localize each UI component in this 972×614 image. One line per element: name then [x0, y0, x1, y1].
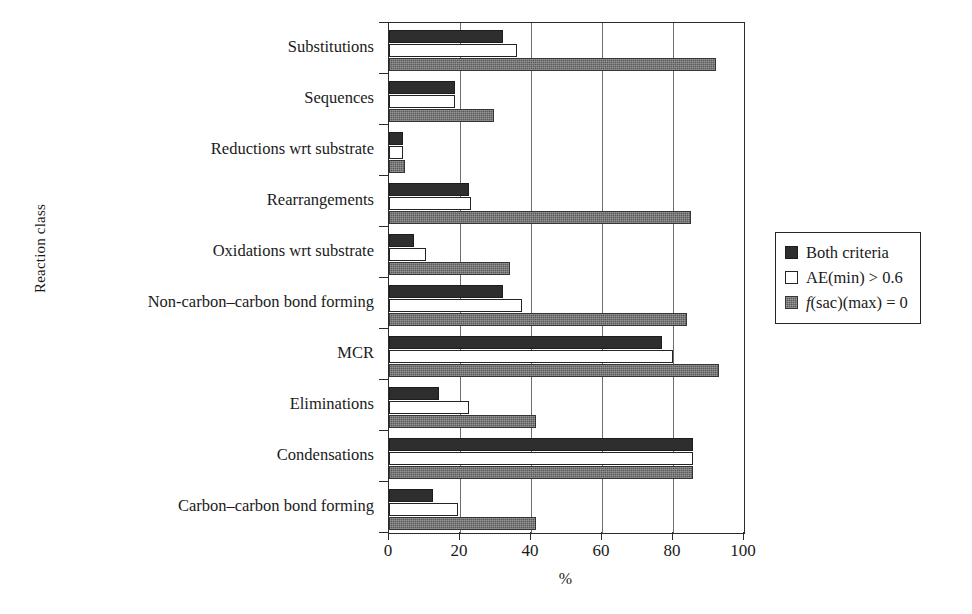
y-tick-6	[379, 328, 388, 329]
bar-both-4	[389, 234, 414, 247]
y-tick-2	[379, 124, 388, 125]
bar-ae-3	[389, 197, 471, 210]
bar-ae-4	[389, 248, 426, 261]
legend-item-ae[interactable]: AE(min) > 0.6	[785, 265, 908, 290]
bar-ae-7	[389, 401, 469, 414]
bar-fsac-0	[389, 58, 716, 71]
legend-item-both[interactable]: Both criteria	[785, 240, 908, 265]
bar-both-2	[389, 132, 403, 145]
bar-fsac-6	[389, 364, 719, 377]
y-category-label-6: MCR	[34, 344, 374, 362]
bar-fsac-7	[389, 415, 536, 428]
x-tick-60	[601, 532, 602, 540]
x-tick-label-100: 100	[713, 541, 773, 561]
bar-ae-1	[389, 95, 455, 108]
y-category-label-5: Non-carbon–carbon bond forming	[34, 293, 374, 311]
y-category-label-7: Eliminations	[34, 395, 374, 413]
bar-both-8	[389, 438, 693, 451]
x-tick-80	[672, 532, 673, 540]
y-category-label-0: Substitutions	[34, 38, 374, 56]
y-category-label-3: Rearrangements	[34, 191, 374, 209]
bar-both-7	[389, 387, 439, 400]
bar-ae-0	[389, 44, 517, 57]
legend-swatch-both-icon	[785, 246, 798, 259]
y-category-label-8: Condensations	[34, 446, 374, 464]
y-axis-category-labels: SubstitutionsSequencesReductions wrt sub…	[40, 22, 380, 532]
x-tick-label-20: 20	[429, 541, 489, 561]
bar-both-0	[389, 30, 503, 43]
y-tick-1	[379, 73, 388, 74]
x-tick-label-60: 60	[571, 541, 631, 561]
legend-label-fsac: f(sac)(max) = 0	[806, 293, 908, 313]
bar-fsac-5	[389, 313, 687, 326]
legend-item-fsac[interactable]: f(sac)(max) = 0	[785, 290, 908, 315]
bar-both-5	[389, 285, 503, 298]
bar-both-9	[389, 489, 433, 502]
y-tick-0	[379, 22, 388, 23]
chart-legend: Both criteriaAE(min) > 0.6f(sac)(max) = …	[775, 232, 921, 324]
y-tick-4	[379, 226, 388, 227]
y-tick-10	[379, 532, 388, 533]
x-tick-label-0: 0	[358, 541, 418, 561]
legend-swatch-fsac-icon	[785, 296, 798, 309]
bar-fsac-3	[389, 211, 691, 224]
bar-fsac-8	[389, 466, 693, 479]
bar-both-1	[389, 81, 455, 94]
bar-ae-2	[389, 146, 403, 159]
bar-both-3	[389, 183, 469, 196]
x-tick-40	[530, 532, 531, 540]
y-category-label-1: Sequences	[34, 89, 374, 107]
x-tick-label-40: 40	[500, 541, 560, 561]
bar-fsac-4	[389, 262, 510, 275]
bar-ae-5	[389, 299, 522, 312]
y-tick-3	[379, 175, 388, 176]
y-category-label-2: Reductions wrt substrate	[34, 140, 374, 158]
bar-ae-9	[389, 503, 458, 516]
bar-fsac-2	[389, 160, 405, 173]
legend-swatch-ae-icon	[785, 271, 798, 284]
y-tick-5	[379, 277, 388, 278]
x-tick-label-80: 80	[642, 541, 702, 561]
y-tick-9	[379, 481, 388, 482]
bar-chart-figure: Reaction class % SubstitutionsSequencesR…	[0, 0, 972, 614]
bar-both-6	[389, 336, 662, 349]
y-tick-7	[379, 379, 388, 380]
y-tick-8	[379, 430, 388, 431]
x-tick-0	[388, 532, 389, 540]
y-category-label-4: Oxidations wrt substrate	[34, 242, 374, 260]
plot-area	[388, 22, 745, 534]
bar-ae-6	[389, 350, 673, 363]
legend-label-ae: AE(min) > 0.6	[806, 268, 903, 288]
bar-fsac-1	[389, 109, 494, 122]
bar-fsac-9	[389, 517, 536, 530]
y-category-label-9: Carbon–carbon bond forming	[34, 497, 374, 515]
bar-ae-8	[389, 452, 693, 465]
x-tick-20	[459, 532, 460, 540]
legend-label-both: Both criteria	[806, 243, 889, 263]
x-tick-100	[743, 532, 744, 540]
x-axis-title: %	[388, 570, 743, 588]
